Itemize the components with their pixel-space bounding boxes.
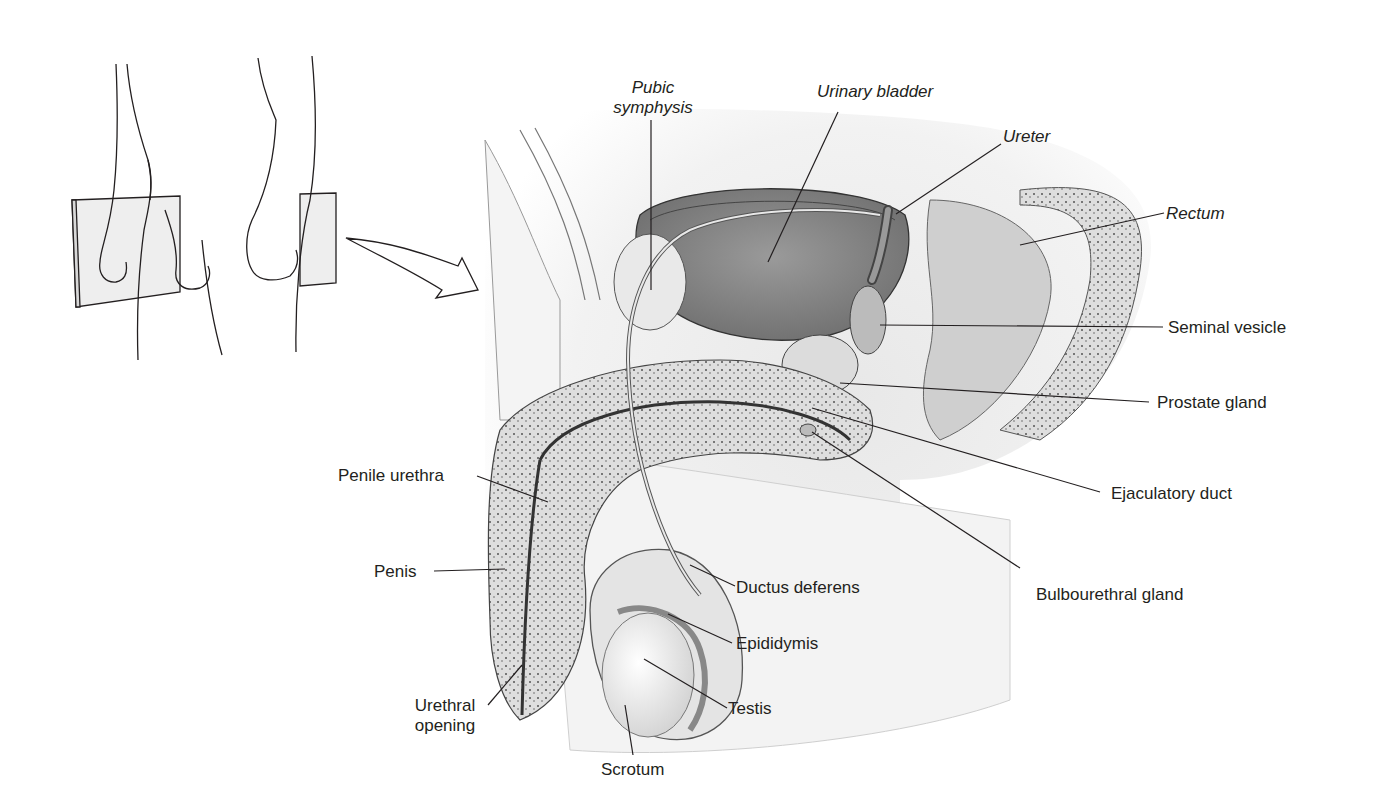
label-urethral-opening-line1: Urethral: [400, 696, 490, 716]
label-pubic-symphysis: Pubic symphysis: [608, 78, 698, 118]
label-ejaculatory-duct: Ejaculatory duct: [1111, 484, 1232, 504]
label-pubic-symphysis-line1: Pubic: [608, 78, 698, 98]
label-urinary-bladder: Urinary bladder: [817, 82, 933, 102]
label-ductus-deferens: Ductus deferens: [736, 578, 860, 598]
label-penile-urethra: Penile urethra: [338, 466, 444, 486]
label-urethral-opening: Urethral opening: [400, 696, 490, 736]
label-pubic-symphysis-line2: symphysis: [608, 98, 698, 118]
label-rectum: Rectum: [1166, 204, 1225, 224]
label-prostate-gland: Prostate gland: [1157, 393, 1267, 413]
label-testis: Testis: [728, 699, 771, 719]
label-penis: Penis: [374, 562, 417, 582]
label-ureter: Ureter: [1003, 127, 1050, 147]
orientation-inset: [72, 56, 478, 360]
label-epididymis: Epididymis: [736, 634, 818, 654]
section-body: [485, 109, 1151, 752]
label-seminal-vesicle: Seminal vesicle: [1168, 318, 1286, 338]
label-urethral-opening-line2: opening: [400, 716, 490, 736]
label-scrotum: Scrotum: [601, 760, 664, 780]
label-bulbourethral-gland: Bulbourethral gland: [1036, 585, 1183, 605]
